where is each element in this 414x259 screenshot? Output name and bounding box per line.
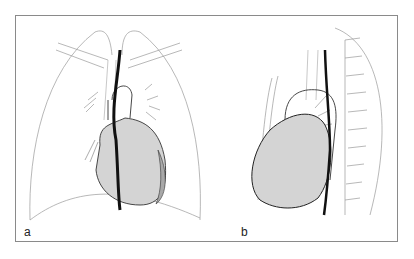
- panel-label-a: a: [24, 225, 31, 239]
- anatomy-illustration: [0, 0, 414, 259]
- aortic-arch-a: [108, 86, 132, 120]
- heart-a: [96, 118, 166, 205]
- panel-label-b: b: [241, 225, 248, 239]
